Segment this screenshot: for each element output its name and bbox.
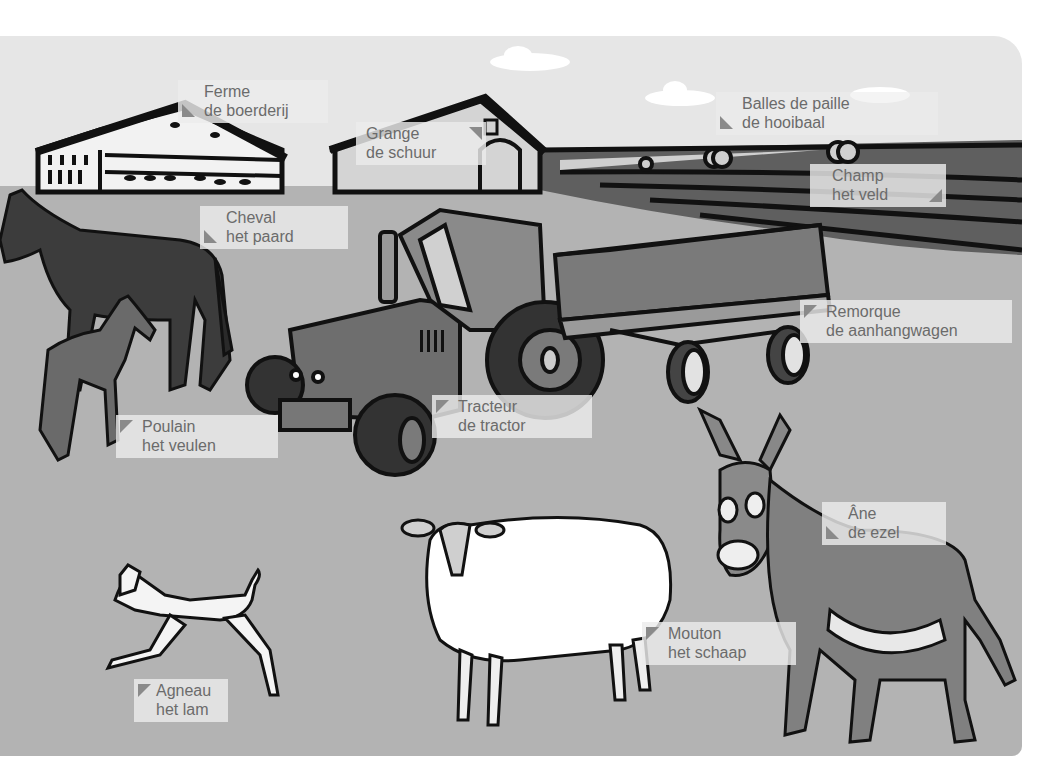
farm-illustration: Ferme de boerderij Grange de schuur Ball… (0, 36, 1022, 756)
label-farm-fr: Ferme (204, 82, 322, 101)
label-donkey: Âne de ezel (822, 502, 946, 545)
sheep-icon (402, 518, 671, 726)
label-field: Champ het veld (810, 164, 946, 207)
label-barn-fr: Grange (366, 124, 480, 143)
label-trailer-fr: Remorque (826, 302, 1006, 321)
label-marker-icon (182, 104, 195, 117)
label-marker-icon (138, 684, 151, 697)
label-foal-fr: Poulain (142, 417, 272, 436)
label-farm: Ferme de boerderij (178, 80, 328, 123)
label-marker-icon (929, 189, 942, 202)
label-field-fr: Champ (832, 166, 940, 185)
label-donkey-nl: de ezel (848, 523, 940, 542)
label-hay-bales-nl: de hooibaal (742, 113, 932, 132)
label-tractor-nl: de tractor (458, 416, 586, 435)
label-sheep: Mouton het schaap (642, 622, 796, 665)
label-marker-icon (436, 400, 449, 413)
label-tractor-fr: Tracteur (458, 397, 586, 416)
label-foal-nl: het veulen (142, 436, 272, 455)
label-marker-icon (826, 526, 839, 539)
label-field-nl: het veld (832, 185, 940, 204)
label-foal: Poulain het veulen (116, 415, 278, 458)
label-lamb: Agneau het lam (134, 679, 228, 722)
label-horse-nl: het paard (226, 227, 342, 246)
label-marker-icon (469, 127, 482, 140)
label-donkey-fr: Âne (848, 504, 940, 523)
label-hay-bales: Balles de paille de hooibaal (716, 92, 938, 135)
label-barn: Grange de schuur (356, 122, 486, 165)
label-sheep-nl: het schaap (668, 643, 790, 662)
label-farm-nl: de boerderij (204, 101, 322, 120)
donkey-icon (700, 410, 1015, 742)
label-marker-icon (720, 116, 733, 129)
label-marker-icon (204, 230, 217, 243)
lamb-icon (108, 565, 278, 695)
label-marker-icon (646, 627, 659, 640)
label-hay-bales-fr: Balles de paille (742, 94, 932, 113)
label-lamb-nl: het lam (156, 700, 222, 719)
label-horse-fr: Cheval (226, 208, 342, 227)
label-barn-nl: de schuur (366, 143, 480, 162)
label-trailer: Remorque de aanhangwagen (800, 300, 1012, 343)
label-horse: Cheval het paard (200, 206, 348, 249)
label-sheep-fr: Mouton (668, 624, 790, 643)
label-trailer-nl: de aanhangwagen (826, 321, 1006, 340)
label-tractor: Tracteur de tractor (432, 395, 592, 438)
label-lamb-fr: Agneau (156, 681, 222, 700)
label-marker-icon (120, 420, 133, 433)
label-marker-icon (804, 305, 817, 318)
